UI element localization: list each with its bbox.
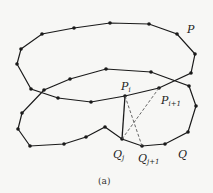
label-q: Q bbox=[178, 148, 187, 161]
label-p-i: Pi bbox=[120, 80, 131, 94]
figure-caption: (a) bbox=[98, 176, 110, 186]
vertex-dot bbox=[40, 32, 44, 36]
vertex-dot bbox=[175, 32, 179, 36]
label-p-i-plus-1: Pi+1 bbox=[160, 94, 181, 108]
vertex-dot bbox=[19, 47, 23, 51]
vertex-dot bbox=[72, 26, 76, 30]
vertex-dot bbox=[186, 130, 190, 134]
polygon-diagram: P Q Pi Pi+1 Qj Qj+1 (a) bbox=[0, 0, 213, 193]
vertex-dot bbox=[62, 142, 66, 146]
edge-pi-qj bbox=[122, 96, 125, 139]
vertex-dot bbox=[68, 77, 72, 81]
dashed-diagonal bbox=[125, 96, 142, 146]
vertex-dot bbox=[187, 84, 191, 88]
label-q-j-plus-1: Qj+1 bbox=[138, 152, 160, 166]
label-q-j: Qj bbox=[113, 148, 125, 162]
vertex-dot bbox=[194, 104, 198, 108]
vertex-dot bbox=[42, 88, 46, 92]
vertex-dot bbox=[56, 96, 60, 100]
vertex-dot bbox=[103, 125, 107, 129]
vertex-dot bbox=[28, 144, 32, 148]
vertex-dot bbox=[193, 52, 197, 56]
vertex-dot bbox=[89, 100, 93, 104]
vertex-dot bbox=[84, 135, 88, 139]
vertex-dot bbox=[108, 21, 112, 25]
vertex-dot bbox=[149, 70, 153, 74]
vertex-dot bbox=[189, 71, 193, 75]
vertex-dot bbox=[20, 111, 24, 115]
label-p: P bbox=[186, 23, 195, 36]
vertex-dot bbox=[104, 67, 108, 71]
vertex-dot bbox=[15, 62, 19, 66]
vertex-dot bbox=[16, 127, 20, 131]
dashed-diagonals bbox=[122, 88, 159, 146]
vertex-dot bbox=[147, 22, 151, 26]
vertex-dot bbox=[29, 87, 33, 91]
vertex-dot bbox=[163, 142, 167, 146]
